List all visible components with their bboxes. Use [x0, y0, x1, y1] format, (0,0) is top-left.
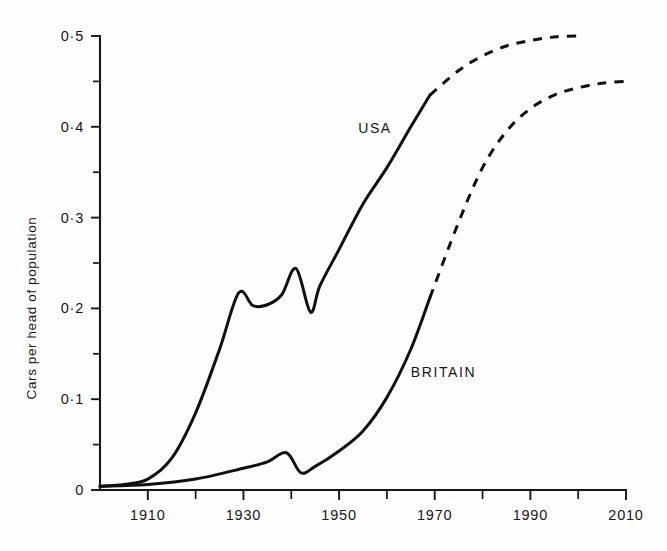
- data-series: [100, 36, 626, 486]
- y-tick-label: 0: [75, 482, 84, 498]
- x-tick-label: 2010: [608, 507, 643, 523]
- series-projection-britain: [430, 81, 626, 297]
- y-axis-title-text: Cars per head of population: [24, 217, 39, 400]
- y-axis-title: Cars per head of population: [24, 217, 39, 400]
- axis-ticks: [91, 36, 626, 500]
- x-tick-label: 1910: [130, 507, 165, 523]
- series-projection-usa: [430, 36, 578, 95]
- series-label-usa: USA: [358, 120, 392, 136]
- axis-tick-labels: 00·10·20·30·40·5191019301950197019902010: [61, 28, 644, 523]
- series-line-usa: [100, 95, 430, 486]
- x-tick-label: 1950: [321, 507, 356, 523]
- series-label-britain: BRITAIN: [411, 364, 476, 380]
- line-chart: 00·10·20·30·40·5191019301950197019902010…: [0, 0, 667, 551]
- chart-figure: 00·10·20·30·40·5191019301950197019902010…: [0, 0, 667, 551]
- x-tick-label: 1930: [226, 507, 261, 523]
- chart-axes: [100, 36, 626, 490]
- y-tick-label: 0·5: [61, 28, 84, 44]
- y-tick-label: 0·2: [61, 300, 84, 316]
- y-tick-label: 0·4: [61, 119, 84, 135]
- series-line-britain: [100, 298, 430, 487]
- y-tick-label: 0·3: [61, 210, 84, 226]
- x-tick-label: 1970: [417, 507, 452, 523]
- x-tick-label: 1990: [513, 507, 548, 523]
- y-tick-label: 0·1: [61, 391, 84, 407]
- axis-lines: [100, 36, 626, 490]
- series-annotations: USABRITAIN: [358, 120, 476, 380]
